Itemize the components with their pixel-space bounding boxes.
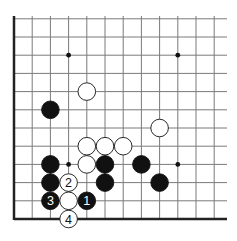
black-stone: 1 — [78, 192, 96, 210]
move-number: 2 — [65, 176, 72, 190]
move-number: 1 — [83, 194, 90, 208]
move-number: 3 — [47, 194, 54, 208]
black-stone — [96, 174, 114, 192]
star-point — [175, 162, 180, 167]
black-stone — [42, 174, 60, 192]
black-stone — [42, 101, 60, 119]
white-stone — [78, 137, 96, 155]
black-stone — [133, 156, 151, 174]
white-stone — [151, 119, 169, 137]
black-stone — [151, 174, 169, 192]
black-stone — [96, 156, 114, 174]
white-stone — [96, 137, 114, 155]
white-stone — [78, 83, 96, 101]
white-stone — [60, 192, 78, 210]
white-stone — [114, 137, 132, 155]
white-stone — [78, 156, 96, 174]
black-stone — [42, 156, 60, 174]
white-stone: 4 — [60, 210, 78, 228]
black-stone: 3 — [42, 192, 60, 210]
white-stone: 2 — [60, 174, 78, 192]
star-point — [175, 53, 180, 58]
move-number: 4 — [65, 213, 72, 227]
star-point — [66, 53, 71, 58]
go-board: 2314 — [0, 0, 237, 241]
star-point — [66, 162, 71, 167]
